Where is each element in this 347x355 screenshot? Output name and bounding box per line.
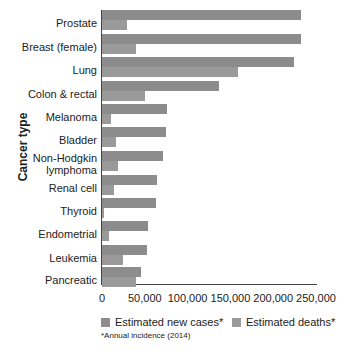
bar-chart: Cancer type ProstateBreast (female)LungC… bbox=[0, 0, 347, 355]
bar-deaths bbox=[102, 208, 104, 218]
bar-new-cases bbox=[102, 10, 301, 20]
bar-deaths bbox=[102, 185, 114, 195]
category-label: Bladder bbox=[59, 134, 97, 146]
bar-new-cases bbox=[102, 245, 147, 255]
bar-deaths bbox=[102, 137, 116, 147]
bar-deaths bbox=[102, 114, 111, 124]
bar-deaths bbox=[102, 20, 127, 30]
bar-new-cases bbox=[102, 34, 301, 44]
bar-deaths bbox=[102, 91, 145, 101]
category-label: Lung bbox=[73, 64, 97, 76]
legend-deaths: Estimated deaths* bbox=[232, 316, 335, 328]
category-label: Melanoma bbox=[46, 111, 97, 123]
bar-new-cases bbox=[102, 81, 219, 91]
bar-new-cases bbox=[102, 57, 294, 67]
category-label: Non-Hodgkin lymphoma bbox=[17, 152, 97, 176]
bar-deaths bbox=[102, 44, 136, 54]
bar-new-cases bbox=[102, 221, 148, 231]
x-tick-label: 150,000 bbox=[211, 292, 251, 304]
bar-new-cases bbox=[102, 151, 163, 161]
bar-deaths bbox=[102, 231, 109, 241]
legend-new-cases: Estimated new cases* bbox=[101, 316, 223, 328]
category-label: Renal cell bbox=[49, 182, 97, 194]
legend-swatch-icon bbox=[101, 318, 110, 327]
x-tick-label: 50,000 bbox=[128, 292, 162, 304]
bar-new-cases bbox=[102, 198, 156, 208]
bar-new-cases bbox=[102, 104, 167, 114]
bar-new-cases bbox=[102, 127, 166, 137]
x-tick-label: 250,000 bbox=[296, 292, 336, 304]
bar-new-cases bbox=[102, 175, 157, 185]
bar-deaths bbox=[102, 277, 136, 287]
bar-deaths bbox=[102, 255, 123, 265]
x-tick-label: 100,000 bbox=[168, 292, 208, 304]
footnote: *Annual incidence (2014) bbox=[101, 331, 190, 340]
x-tick-label: 0 bbox=[99, 292, 105, 304]
category-label: Colon & rectal bbox=[28, 88, 97, 100]
category-label: Prostate bbox=[56, 17, 97, 29]
category-label: Leukemia bbox=[49, 252, 97, 264]
legend-swatch-icon bbox=[232, 318, 241, 327]
x-tick-label: 200,000 bbox=[253, 292, 293, 304]
y-axis-label: Cancer type bbox=[16, 102, 30, 192]
category-label: Breast (female) bbox=[22, 41, 97, 53]
category-label: Endometrial bbox=[38, 228, 97, 240]
category-label: Thyroid bbox=[60, 205, 97, 217]
bar-deaths bbox=[102, 161, 118, 171]
category-label: Pancreatic bbox=[45, 274, 97, 286]
bar-new-cases bbox=[102, 267, 141, 277]
bar-deaths bbox=[102, 67, 238, 77]
